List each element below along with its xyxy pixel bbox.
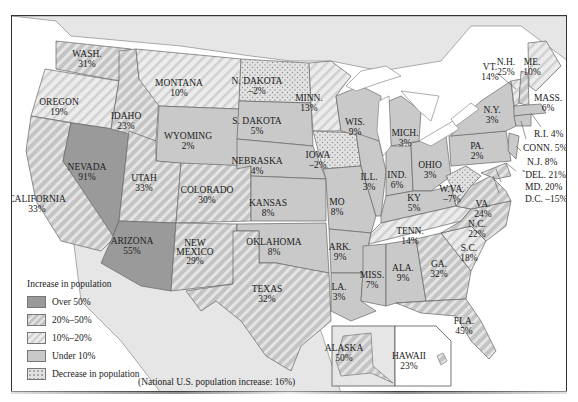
label-louisiana: LA.3%: [331, 282, 346, 302]
legend: Increase in population Over 50% 20%–50% …: [27, 279, 140, 384]
label-illinois: ILL.3%: [360, 172, 377, 192]
label-connecticut: CONN. 5%: [523, 143, 567, 153]
national-increase-footnote: (National U.S. population increase: 16%): [138, 377, 295, 387]
label-utah: UTAH33%: [131, 173, 157, 193]
label-alabama: ALA.9%: [392, 263, 414, 283]
label-kansas: KANSAS8%: [249, 198, 287, 218]
state-connecticut: [514, 114, 531, 126]
label-hawaii: HAWAII23%: [392, 351, 426, 371]
legend-item-over-50: Over 50%: [27, 294, 140, 309]
label-rhode-island: R.I. 4%: [534, 129, 563, 139]
label-iowa: IOWA–2%: [306, 150, 331, 170]
label-north-dakota: N. DAKOTA–2%: [232, 76, 283, 96]
legend-title: Increase in population: [27, 279, 140, 289]
label-arkansas: ARK.9%: [329, 242, 351, 262]
swatch-solid-dark: [27, 296, 46, 308]
label-texas: TEXAS32%: [252, 284, 283, 304]
label-district-of-columbia: D.C. –15%: [525, 194, 567, 204]
label-alaska: ALASKA50%: [325, 343, 364, 363]
label-montana: MONTANA10%: [155, 78, 203, 98]
label-minnesota: MINN.13%: [295, 93, 323, 113]
label-new-jersey: N.J. 8%: [527, 157, 557, 167]
label-idaho: IDAHO23%: [111, 111, 142, 131]
label-new-york: N.Y.3%: [483, 105, 500, 125]
label-west-virginia: W.VA.–7%: [439, 184, 464, 204]
label-colorado: COLORADO30%: [181, 185, 234, 205]
swatch-dense-diagonal: [27, 314, 46, 326]
frame-shadow: [11, 391, 567, 394]
map-frame: WASH.31% OREGON19% CALIFORNIA33% IDAHO23…: [11, 15, 567, 392]
label-virginia: VA.24%: [474, 199, 491, 219]
label-arizona: ARIZONA55%: [111, 236, 154, 256]
swatch-dots: [27, 368, 46, 380]
label-nevada: NEVADA91%: [68, 162, 107, 182]
label-south-carolina: S.C.18%: [460, 243, 477, 263]
legend-item-under-10: Under 10%: [27, 348, 140, 363]
label-oklahoma: OKLAHOMA8%: [246, 237, 301, 257]
label-michigan: MICH.3%: [391, 128, 418, 148]
label-mississippi: MISS.7%: [360, 270, 385, 290]
label-florida: FLA.45%: [454, 316, 474, 336]
legend-item-decrease: Decrease in population: [27, 366, 140, 381]
label-maine: ME.10%: [523, 57, 540, 77]
swatch-light-diagonal: [27, 332, 46, 344]
label-wisconsin: WIS.9%: [345, 117, 365, 137]
label-maryland: MD. 20%: [525, 182, 562, 192]
label-massachusetts: MASS.6%: [534, 93, 562, 113]
label-north-carolina: N.C.22%: [468, 219, 486, 239]
label-california: CALIFORNIA33%: [11, 194, 66, 214]
label-wyoming: WYOMING2%: [164, 131, 212, 151]
legend-item-10-20: 10%–20%: [27, 330, 140, 345]
label-oregon: OREGON19%: [39, 97, 79, 117]
label-tennessee: TENN.14%: [396, 226, 424, 246]
label-washington: WASH.31%: [72, 49, 101, 69]
swatch-solid-light: [27, 350, 46, 362]
label-new-hampshire: N.H.25%: [497, 57, 515, 77]
label-missouri: MO8%: [329, 197, 344, 217]
label-kentucky: KY5%: [407, 193, 421, 213]
label-nebraska: NEBRASKA4%: [231, 156, 282, 176]
label-georgia: GA.32%: [430, 259, 447, 279]
label-new-mexico: NEWMEXICO29%: [176, 239, 213, 266]
label-indiana: IND.6%: [387, 170, 406, 190]
legend-item-20-50: 20%–50%: [27, 312, 140, 327]
label-pennsylvania: PA.2%: [470, 141, 484, 161]
label-south-dakota: S. DAKOTA5%: [232, 116, 281, 136]
label-delaware: ˜DEL. 21%: [522, 170, 566, 180]
label-ohio: OHIO3%: [418, 160, 442, 180]
